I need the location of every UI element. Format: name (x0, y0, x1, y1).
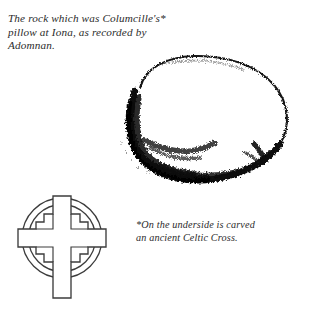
celtic-cross-illustration (8, 190, 120, 304)
caption-underside-note: *On the underside is carved an ancient C… (136, 218, 306, 244)
rock-illustration (104, 48, 300, 188)
caption-rock-description: The rock which was Columcille's* pillow … (8, 12, 188, 53)
illustration-page: The rock which was Columcille's* pillow … (0, 0, 313, 313)
